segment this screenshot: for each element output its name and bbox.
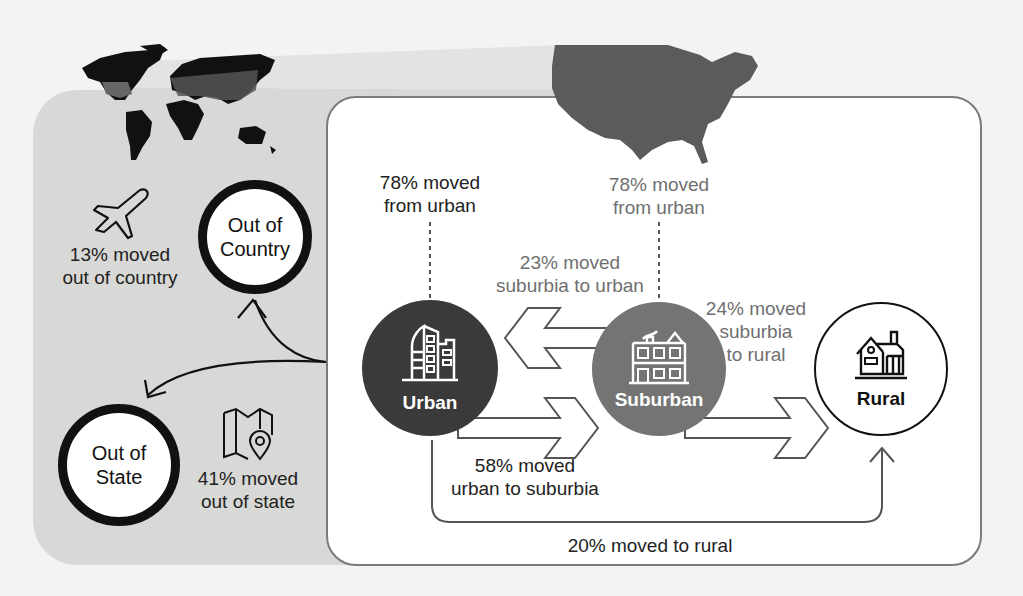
out-of-state-node: Out ofState xyxy=(58,404,180,526)
suburbia-to-urban-stat: 23% movedsuburbia to urban xyxy=(480,251,660,297)
node-label: Country xyxy=(220,238,290,260)
farmhouse-icon xyxy=(853,328,909,382)
urban-header-stat: 78% movedfrom urban xyxy=(355,171,505,217)
out-of-state-stat: 41% movedout of state xyxy=(188,467,308,513)
map-pin-icon xyxy=(222,407,278,463)
rural-node: Rural xyxy=(814,302,948,436)
townhouse-icon xyxy=(627,327,691,385)
node-label: Suburban xyxy=(615,389,704,411)
node-label: Urban xyxy=(403,392,458,414)
city-buildings-icon xyxy=(398,322,462,384)
urban-to-suburbia-stat: 58% movedurban to suburbia xyxy=(440,454,610,500)
node-label: Rural xyxy=(857,388,906,410)
suburban-node: Suburban xyxy=(592,302,726,436)
suburban-header-stat: 78% movedfrom urban xyxy=(584,173,734,219)
airplane-icon xyxy=(90,186,152,242)
node-label: Out of xyxy=(92,442,146,464)
node-label: Out of xyxy=(228,214,282,236)
out-of-country-stat: 13% movedout of country xyxy=(45,243,195,289)
node-label: State xyxy=(96,466,143,488)
out-of-country-node: Out ofCountry xyxy=(198,180,312,294)
to-rural-stat: 20% moved to rural xyxy=(520,534,780,557)
urban-node: Urban xyxy=(362,300,498,436)
